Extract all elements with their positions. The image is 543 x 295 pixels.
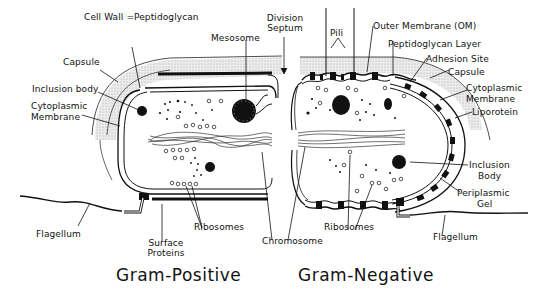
label-capsule-right: Capsule bbox=[448, 67, 485, 77]
label-periplasmic-gel-1: Periplasmic bbox=[457, 188, 510, 198]
label-cytoplasmic-left-2: Membrane bbox=[31, 112, 80, 122]
label-flagellum-left: Flagellum bbox=[36, 229, 81, 239]
label-surface-proteins-2: Proteins bbox=[146, 248, 186, 258]
title-gram-positive: Gram-Positive bbox=[116, 265, 241, 285]
label-peptidoglycan-layer: Peptidoglycan Layer bbox=[388, 39, 481, 49]
label-division-septum-1: Division bbox=[266, 13, 304, 23]
label-periplasmic-gel-2: Gel bbox=[477, 199, 492, 209]
label-cytoplasmic-left-1: Cytoplasmic bbox=[31, 101, 87, 111]
label-surface-proteins-1: Surface bbox=[146, 238, 186, 248]
label-ribosomes-right: Ribosomes bbox=[324, 222, 374, 232]
label-cytoplasmic-right-2: Membrane bbox=[466, 94, 515, 104]
label-capsule-left: Capsule bbox=[63, 57, 100, 67]
gram-positive-cell bbox=[20, 56, 282, 212]
label-cytoplasmic-right-1: Cytoplasmic bbox=[466, 83, 522, 93]
label-inclusion-body-left: Inclusion body bbox=[32, 84, 98, 94]
label-inclusion-body-right-1: Inclusion bbox=[469, 160, 510, 170]
title-gram-negative: Gram-Negative bbox=[298, 265, 434, 285]
label-mesosome: Mesosome bbox=[211, 33, 260, 43]
label-flagellum-right: Flagellum bbox=[433, 232, 478, 242]
label-pili: Pili bbox=[330, 28, 343, 38]
label-adhesion-site: Adhesion Site bbox=[426, 54, 489, 64]
label-ribosomes-left: Ribosomes bbox=[194, 222, 244, 232]
label-chromosome: Chromosome bbox=[262, 236, 323, 246]
label-division-septum-2: Septum bbox=[266, 23, 304, 33]
label-cell-wall: Cell Wall =Peptidoglycan bbox=[84, 12, 199, 22]
label-liporotein: Liporotein bbox=[472, 107, 518, 117]
label-outer-membrane: Outer Membrane (OM) bbox=[373, 21, 476, 31]
label-inclusion-body-right-2: Body bbox=[478, 171, 501, 181]
